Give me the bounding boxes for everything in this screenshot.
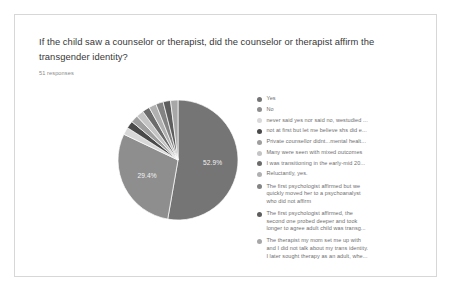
legend-item[interactable]: never said yes nor said no, westudied ..… (257, 117, 429, 125)
pie-slice-label: 52.9% (203, 159, 222, 166)
legend-item[interactable]: Yes (257, 95, 429, 103)
chart-legend: YesNonever said yes nor said no, westudi… (257, 95, 429, 264)
legend-item-label: The first psychologist affirmed, the sec… (266, 210, 429, 233)
legend-item-label: Many were seen with mixed outcomes (266, 149, 429, 157)
legend-item[interactable]: not at first but let me believe shs did … (257, 127, 429, 135)
legend-item-label: The therapist my mom set me up with and … (266, 237, 429, 260)
legend-item[interactable]: Private counsellor didnt...mental healt.… (257, 138, 429, 146)
legend-swatch-icon (257, 118, 262, 123)
pie-slice-label: 29.4% (137, 172, 156, 179)
response-count: 51 responses (39, 69, 411, 77)
question-title: If the child saw a counselor or therapis… (39, 34, 411, 64)
legend-swatch-icon (257, 97, 262, 102)
chart-area: 52.9%29.4% YesNonever said yes nor said … (35, 93, 425, 265)
legend-item-label: Yes (266, 95, 429, 103)
legend-item[interactable]: The first psychologist affirmed, the sec… (257, 210, 429, 233)
legend-swatch-icon (257, 129, 262, 134)
legend-item[interactable]: Many were seen with mixed outcomes (257, 149, 429, 157)
legend-item-label: never said yes nor said no, westudied ..… (266, 117, 429, 125)
legend-item-label: I was transitioning in the early-mid 20.… (266, 160, 429, 168)
legend-item[interactable]: The first psychologist affirmed but we q… (257, 183, 429, 206)
legend-swatch-icon (257, 184, 262, 189)
legend-item-label: The first psychologist affirmed but we q… (266, 183, 429, 206)
legend-swatch-icon (257, 151, 262, 156)
legend-item[interactable]: I was transitioning in the early-mid 20.… (257, 160, 429, 168)
legend-swatch-icon (257, 212, 262, 217)
pie-chart-svg: 52.9%29.4% (117, 99, 239, 221)
legend-swatch-icon (257, 140, 262, 145)
question-block: If the child saw a counselor or therapis… (39, 34, 411, 77)
legend-item-label: Reluctantly, yes. (266, 170, 429, 178)
legend-item-label: not at first but let me believe shs did … (266, 127, 429, 135)
legend-item-label: No (266, 106, 429, 114)
legend-swatch-icon (257, 239, 262, 244)
legend-item[interactable]: The therapist my mom set me up with and … (257, 237, 429, 260)
legend-swatch-icon (257, 107, 262, 112)
survey-result-card: If the child saw a counselor or therapis… (14, 14, 437, 277)
legend-swatch-icon (257, 172, 262, 177)
legend-item-label: Private counsellor didnt...mental healt.… (266, 138, 429, 146)
legend-item[interactable]: No (257, 106, 429, 114)
legend-swatch-icon (257, 161, 262, 166)
pie-chart: 52.9%29.4% (117, 99, 239, 221)
screenshot-root: If the child saw a counselor or therapis… (0, 0, 452, 294)
legend-item[interactable]: Reluctantly, yes. (257, 170, 429, 178)
